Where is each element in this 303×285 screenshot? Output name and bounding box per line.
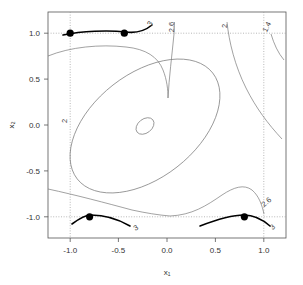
marked-point bbox=[241, 213, 248, 220]
marked-point bbox=[86, 213, 93, 220]
x-axis-group: -1.0 -0.5 0.0 0.5 1.0 x₁ bbox=[63, 238, 270, 277]
y-tick-label: 0.5 bbox=[29, 75, 41, 84]
contours-group bbox=[45, 22, 284, 220]
x-tick-label: 1.0 bbox=[258, 246, 270, 255]
constraint-curve-top bbox=[63, 25, 152, 35]
x-tick-label: 0.5 bbox=[210, 246, 222, 255]
plot-box-frame bbox=[48, 12, 286, 238]
guide-lines-group bbox=[48, 12, 286, 238]
y-tick-label: 1.0 bbox=[29, 29, 41, 38]
contour-inner-ellipse bbox=[133, 114, 157, 137]
y-tick-label: 0.0 bbox=[29, 121, 41, 130]
x-tick-label: 0.0 bbox=[161, 246, 173, 255]
y-tick-label: -1.0 bbox=[26, 213, 40, 222]
contour-label: 3 bbox=[145, 19, 155, 28]
contour-right-descending bbox=[227, 22, 282, 139]
y-axis-title: x₂ bbox=[7, 121, 16, 128]
contour-labels-group: 3 2.6 2 1.4 2 2.6 3 3 bbox=[60, 19, 277, 232]
contour-label: 2 bbox=[220, 24, 229, 28]
contour-label: 3 bbox=[268, 222, 277, 232]
x-axis-title: x₁ bbox=[164, 268, 171, 277]
y-tick-label: -0.5 bbox=[26, 167, 40, 176]
plot-canvas: 3 2.6 2 1.4 2 2.6 3 3 -1.0 -0.5 0.0 0.5 … bbox=[0, 0, 303, 285]
marked-point bbox=[121, 30, 128, 37]
contour-lower-right-hump bbox=[170, 187, 264, 216]
y-axis-group: 1.0 0.5 0.0 -0.5 -1.0 x₂ bbox=[7, 29, 48, 222]
contour-label: 1.4 bbox=[260, 20, 273, 33]
marked-point bbox=[67, 30, 74, 37]
contour-label: 3 bbox=[132, 223, 140, 233]
constraint-curves-group bbox=[63, 25, 270, 226]
contour-upper-arc bbox=[48, 46, 168, 98]
contour-label: 2 bbox=[60, 119, 69, 123]
contour-label: 2.6 bbox=[260, 195, 274, 209]
contour-top-right-tail bbox=[271, 34, 284, 60]
contour-plot-figure: 3 2.6 2 1.4 2 2.6 3 3 -1.0 -0.5 0.0 0.5 … bbox=[0, 0, 303, 285]
contour-large-ellipse bbox=[45, 32, 245, 220]
x-tick-label: -0.5 bbox=[112, 246, 126, 255]
x-tick-label: -1.0 bbox=[63, 246, 77, 255]
marked-points-group bbox=[67, 30, 248, 221]
contour-label: 2.6 bbox=[167, 22, 176, 32]
